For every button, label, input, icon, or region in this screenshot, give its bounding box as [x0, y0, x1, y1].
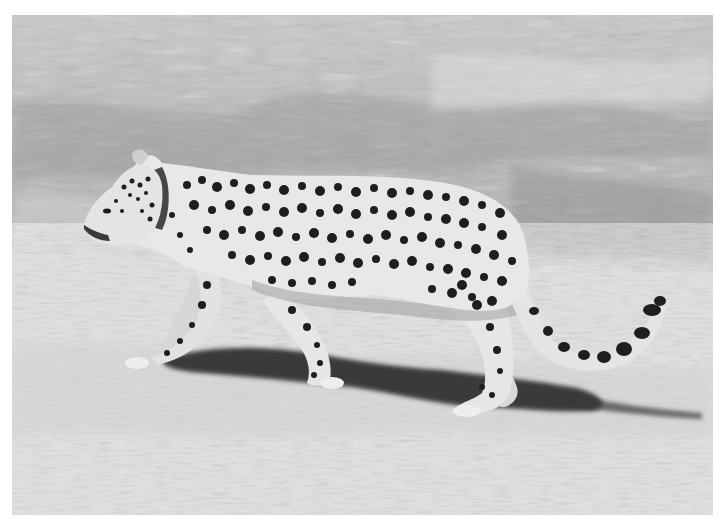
leopard-photo: Grayscale photograph of a spotted leopar…: [12, 15, 713, 515]
photo-canvas: [12, 15, 713, 515]
